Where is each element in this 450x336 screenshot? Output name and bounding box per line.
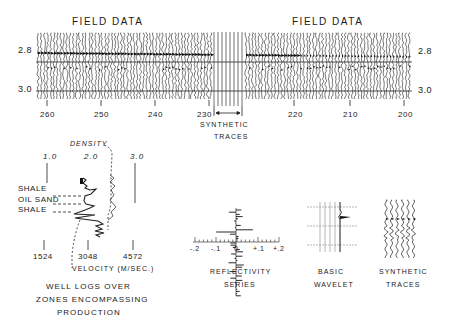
reflectivity-tick-pos-0-2: +.2: [273, 245, 284, 252]
reflectivity-tick-pos-0-1: +.1: [253, 245, 264, 252]
zone-label-shale-bottom: SHALE: [18, 205, 47, 214]
field-data-title-left: FIELD DATA: [72, 16, 143, 27]
wavelet-caption-line2: WAVELET: [314, 281, 354, 288]
velocity-tick-3048: 3048: [78, 252, 98, 261]
synthetic-traces-label-line2: TRACES: [214, 133, 248, 140]
trace-number-220: 220: [288, 110, 303, 119]
trace-number-230: 230: [197, 110, 212, 119]
time-label-2-8-right: 2.8: [418, 46, 432, 56]
reflectivity-tick-0: 0: [234, 245, 238, 252]
zone-label-oil-sand: OIL SAND: [18, 195, 59, 204]
reflectivity-caption-line1: REFLECTIVITY: [210, 268, 271, 275]
density-tick-2-0: 2.0: [84, 152, 98, 161]
trace-number-250: 250: [94, 110, 109, 119]
wavelet-caption-line1: BASIC: [318, 268, 344, 275]
well-logs-caption-line3: PRODUCTION: [57, 308, 121, 317]
well-logs-caption-line2: ZONES ENCOMPASSING: [36, 295, 149, 304]
time-label-3-0-right: 3.0: [418, 85, 432, 95]
density-tick-3-0: 3.0: [130, 152, 144, 161]
zone-label-shale-top: SHALE: [18, 184, 47, 193]
velocity-label: VELOCITY (M/SEC.): [72, 265, 154, 272]
time-label-2-8-left: 2.8: [18, 45, 32, 55]
density-label: DENSITY: [70, 140, 107, 147]
synthetic-caption-line2: TRACES: [386, 281, 420, 288]
trace-number-240: 240: [148, 110, 163, 119]
trace-number-260: 260: [40, 110, 55, 119]
well-logs-caption-line1: WELL LOGS OVER: [46, 282, 131, 291]
reflectivity-tick-neg-0-1: -.1: [211, 245, 221, 252]
velocity-tick-4572: 4572: [123, 252, 143, 261]
synthetic-caption-line1: SYNTHETIC: [379, 268, 428, 275]
field-data-title-right: FIELD DATA: [292, 16, 363, 27]
synthetic-traces-label-line1: SYNTHETIC: [200, 121, 249, 128]
trace-number-200: 200: [398, 110, 413, 119]
velocity-tick-1524: 1524: [33, 252, 53, 261]
time-label-3-0-left: 3.0: [18, 84, 32, 94]
reflectivity-tick-neg-0-2: -.2: [190, 245, 200, 252]
trace-number-210: 210: [343, 110, 358, 119]
density-tick-1-0: 1.0: [43, 152, 57, 161]
reflectivity-caption-line2: SERIES: [224, 281, 256, 288]
